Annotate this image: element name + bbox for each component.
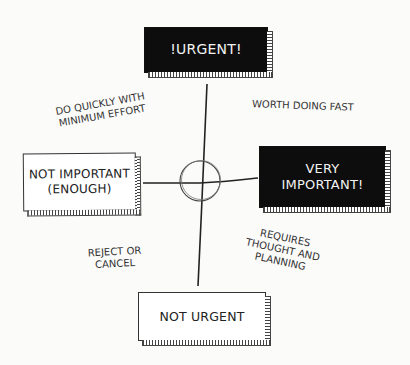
urgent-label: !URGENT! — [170, 41, 242, 59]
very-important-label-line2: IMPORTANT! — [282, 177, 364, 193]
not-important-box: NOT IMPORTANT (ENOUGH) — [23, 153, 137, 212]
urgent-box: !URGENT! — [144, 27, 268, 73]
not-important-label-line2: (ENOUGH) — [29, 182, 130, 198]
priority-matrix-diagram: !URGENT! NOT IMPORTANT (ENOUGH) VERY IMP… — [0, 0, 410, 365]
very-important-label-line1: VERY — [282, 161, 364, 177]
not-urgent-label: NOT URGENT — [159, 309, 244, 325]
horizontal-axis-line — [143, 178, 258, 183]
very-important-box: VERY IMPORTANT! — [259, 146, 386, 208]
quadrant-bottom-left-label: REJECT OR CANCEL — [87, 245, 142, 272]
vertical-axis-line — [198, 84, 207, 286]
not-important-label-line1: NOT IMPORTANT — [29, 167, 130, 183]
not-urgent-box: NOT URGENT — [138, 292, 266, 341]
